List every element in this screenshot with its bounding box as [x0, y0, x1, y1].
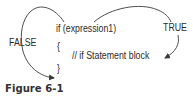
- true-label: TRUE: [163, 23, 187, 33]
- if-statement-diagram: FALSE if (expression1) { // if Statement…: [0, 0, 193, 101]
- statement-block-comment: // if Statement block: [72, 51, 149, 61]
- condition-line: if (expression1): [56, 24, 116, 34]
- figure-caption: Figure 6-1: [5, 83, 63, 94]
- open-brace: {: [57, 42, 60, 52]
- true-branch-arrow-top: [94, 6, 171, 22]
- false-label: FALSE: [9, 38, 36, 48]
- close-brace: }: [57, 64, 60, 74]
- true-branch-arrow-bottom: [165, 35, 178, 58]
